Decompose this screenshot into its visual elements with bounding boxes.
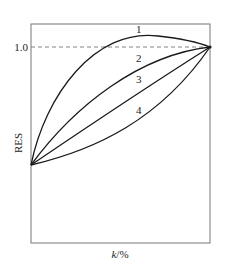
plot-frame (31, 24, 210, 243)
curve-1 (31, 35, 210, 165)
curve-1-label: 1 (136, 23, 142, 35)
curve-2-label: 2 (136, 52, 142, 64)
x-axis-label: k/% (111, 248, 128, 260)
curve-3 (31, 47, 210, 165)
x-axis-label-unit: /% (116, 248, 128, 260)
y-axis-label: RES (12, 133, 24, 153)
curve-4-label: 4 (136, 104, 142, 116)
convergence-point (208, 45, 211, 48)
curve-3-label: 3 (136, 73, 142, 85)
ytick-label: 1.0 (14, 41, 28, 53)
chart: 1 2 3 4 1.0 RES k/% (0, 0, 226, 269)
